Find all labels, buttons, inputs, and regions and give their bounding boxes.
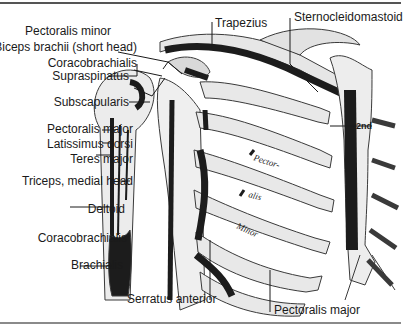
label-trapezius: Trapezius [215,16,267,30]
label-teres-major: Teres major [70,152,133,166]
label-biceps-short-head: Biceps brachii (short head) [0,40,137,54]
label-coracobrachialis-arm: Coracobrachialis [38,231,127,245]
label-pectoralis-minor: Pectoralis minor [25,24,111,38]
label-pectoralis-major-arm: Pectoralis major [47,122,133,136]
rib-text-pector: Pector- [251,152,281,170]
label-sternocleidomastoid: Sternocleidomastoid [294,10,403,24]
rib-text-alis: alis [247,189,263,202]
label-latissimus-dorsi: Latissimus dorsi [47,137,133,151]
label-pectoralis-major-chest: Pectoralis major [274,303,360,317]
label-triceps-medial-head: Triceps, medial head [22,174,133,188]
label-deltoid: Deltoid [88,202,125,216]
label-serratus-anterior: Serratus anterior [127,292,216,306]
label-brachialis: Brachialis [71,258,123,272]
label-supraspinatus: Supraspinatus [52,69,129,83]
label-coracobrachialis-top: Coracobrachialis [48,56,137,70]
rib-number-label: 2nd [356,121,372,131]
label-subscapularis: Subscapularis [54,95,129,109]
